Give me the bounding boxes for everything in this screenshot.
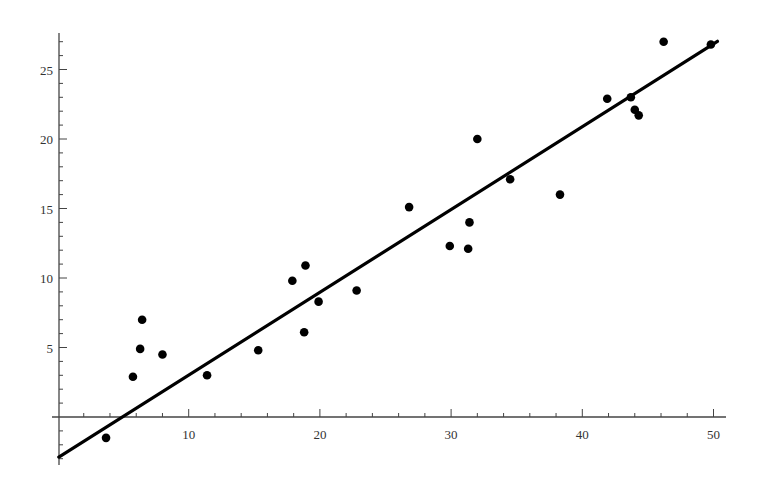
data-point xyxy=(300,328,309,337)
data-point xyxy=(352,286,361,295)
y-tick-label: 20 xyxy=(40,132,53,147)
x-tick-label: 40 xyxy=(576,427,589,442)
data-point xyxy=(473,135,482,144)
data-point xyxy=(445,242,454,251)
axes: 1020304050510152025 xyxy=(40,33,726,465)
data-point xyxy=(254,346,263,355)
y-tick-label: 25 xyxy=(40,63,53,78)
data-point xyxy=(102,434,111,443)
x-tick-label: 20 xyxy=(313,427,326,442)
data-point xyxy=(314,297,323,306)
data-point xyxy=(138,315,147,324)
data-point xyxy=(288,276,297,285)
data-point xyxy=(627,93,636,102)
data-point xyxy=(465,218,474,227)
data-point xyxy=(129,372,138,381)
data-point xyxy=(659,37,668,46)
y-tick-label: 10 xyxy=(40,271,53,286)
x-tick-label: 30 xyxy=(445,427,458,442)
y-tick-label: 5 xyxy=(47,341,54,356)
regression-line xyxy=(59,41,718,457)
data-point xyxy=(603,94,612,103)
data-point xyxy=(556,190,565,199)
fit-line xyxy=(59,41,718,457)
data-point xyxy=(634,111,643,120)
data-point xyxy=(203,371,212,380)
data-point xyxy=(506,175,515,184)
data-point xyxy=(136,345,145,354)
x-tick-label: 50 xyxy=(707,427,720,442)
data-points xyxy=(102,37,715,442)
data-point xyxy=(405,203,414,212)
x-tick-label: 10 xyxy=(182,427,195,442)
data-point xyxy=(158,350,167,359)
data-point xyxy=(464,245,473,254)
scatter-plot-with-fit-line: 1020304050510152025 xyxy=(0,0,758,485)
y-tick-label: 15 xyxy=(40,202,53,217)
data-point xyxy=(301,261,310,270)
data-point xyxy=(707,40,716,49)
